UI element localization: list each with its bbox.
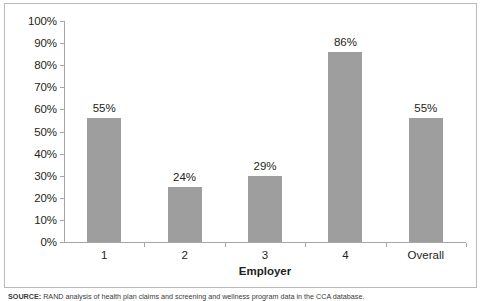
y-axis-tick-label: 90% [5, 37, 57, 49]
figure-frame: 0%10%20%30%40%50%60%70%80%90%100% 55%24%… [4, 3, 477, 288]
y-axis-tick-mark [60, 220, 64, 221]
bar-value-label: 55% [400, 102, 452, 115]
source-note-lead: SOURCE: [8, 293, 41, 301]
source-note-text: RAND analysis of health plan claims and … [41, 293, 364, 301]
x-axis-category-label: 3 [235, 248, 295, 262]
y-axis-tick-label: 30% [5, 170, 57, 182]
y-axis-tick-mark [60, 87, 64, 88]
y-axis-tick-mark [60, 154, 64, 155]
y-axis-tick-label: 100% [5, 15, 57, 27]
bar[interactable] [409, 118, 443, 242]
bar[interactable] [328, 52, 362, 242]
x-axis-category-label: 1 [74, 248, 134, 262]
bar-value-label: 24% [159, 171, 211, 184]
y-axis-tick-mark [60, 132, 64, 133]
y-axis-tick-mark [60, 21, 64, 22]
y-axis-tick-label: 70% [5, 81, 57, 93]
y-axis-tick-label: 40% [5, 148, 57, 160]
x-axis-tick-mark [144, 243, 145, 247]
y-axis-tick-mark [60, 198, 64, 199]
source-note: SOURCE: RAND analysis of health plan cla… [8, 293, 478, 301]
bar-value-label: 29% [239, 160, 291, 173]
x-axis-tick-mark [466, 243, 467, 247]
bar-value-label: 55% [78, 102, 130, 115]
y-axis-line [64, 21, 65, 242]
x-axis-tick-mark [225, 243, 226, 247]
bar-value-label: 86% [319, 36, 371, 49]
bar-chart: 0%10%20%30%40%50%60%70%80%90%100% 55%24%… [5, 4, 478, 289]
bar[interactable] [87, 118, 121, 242]
y-axis-tick-label: 60% [5, 103, 57, 115]
x-axis-line [64, 242, 466, 243]
x-axis-title: Employer [64, 265, 466, 277]
y-axis-tick-label: 20% [5, 192, 57, 204]
bar[interactable] [168, 187, 202, 242]
x-axis-tick-mark [305, 243, 306, 247]
y-axis-tick-mark [60, 109, 64, 110]
x-axis-category-label: 2 [155, 248, 215, 262]
y-axis-tick-label: 50% [5, 126, 57, 138]
y-axis-tick-mark [60, 242, 64, 243]
x-axis-category-label: 4 [315, 248, 375, 262]
y-axis-tick-mark [60, 176, 64, 177]
y-axis-tick-label: 10% [5, 214, 57, 226]
y-axis-tick-mark [60, 65, 64, 66]
y-axis-tick-mark [60, 43, 64, 44]
y-axis-tick-label: 0% [5, 236, 57, 248]
y-axis-tick-labels: 0%10%20%30%40%50%60%70%80%90%100% [5, 4, 57, 289]
x-axis-category-label: Overall [396, 248, 456, 262]
bar[interactable] [248, 176, 282, 242]
x-axis-tick-mark [386, 243, 387, 247]
y-axis-tick-label: 80% [5, 59, 57, 71]
